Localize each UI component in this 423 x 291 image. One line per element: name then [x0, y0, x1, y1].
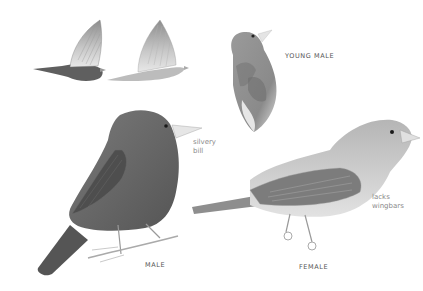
- label-female: FEMALE: [299, 263, 328, 271]
- label-lacks-wingbars: lacks wingbars: [372, 193, 404, 211]
- young-male-figure: [231, 30, 276, 132]
- label-young-male: YOUNG MALE: [285, 52, 334, 60]
- adult-male-figure: [38, 110, 202, 275]
- illustration-plate: YOUNG MALE silvery bill MALE lacks wingb…: [0, 0, 423, 291]
- flight-male-figure: [33, 20, 106, 81]
- flight-female-figure: [107, 20, 189, 81]
- label-silvery-bill: silvery bill: [193, 138, 216, 156]
- adult-female-figure: [192, 120, 420, 250]
- label-male: MALE: [145, 261, 165, 269]
